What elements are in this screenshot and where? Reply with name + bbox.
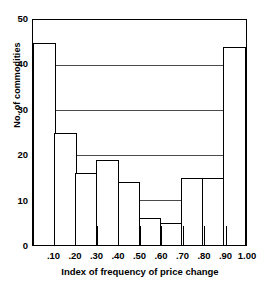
x-tick-mark-.30 <box>97 226 98 246</box>
x-tick-label-1.00: 1.00 <box>230 250 264 261</box>
x-tick-mark-.40 <box>118 226 119 246</box>
x-axis-tick-labels: .10.20.30.40.50.60.70.80.901.00 <box>32 250 247 264</box>
x-tick-mark-.80 <box>204 226 205 246</box>
plot-inner <box>33 20 246 245</box>
y-tick-label-0: 0 <box>2 241 28 250</box>
y-tick-label-30: 30 <box>2 105 28 114</box>
x-tick-mark-.60 <box>161 226 162 246</box>
x-tick-mark-.20 <box>75 226 76 246</box>
y-tick-label-20: 20 <box>2 150 28 159</box>
x-tick-mark-.50 <box>140 226 141 246</box>
y-tick-label-10: 10 <box>2 196 28 205</box>
bar-series <box>33 20 246 245</box>
x-tick-mark-.70 <box>183 226 184 246</box>
y-tick-label-40: 40 <box>2 59 28 68</box>
bar <box>33 43 56 246</box>
histogram-figure: No. of commodities 01020304050 .10.20.30… <box>0 0 280 286</box>
x-tick-mark-.10 <box>54 226 55 246</box>
plot-area <box>32 19 247 246</box>
x-tick-mark-.90 <box>226 226 227 246</box>
x-axis-title: Index of frequency of price change <box>0 266 280 277</box>
y-tick-label-50: 50 <box>2 14 28 23</box>
x-axis-tick-marks <box>32 225 247 246</box>
bar <box>223 47 246 245</box>
